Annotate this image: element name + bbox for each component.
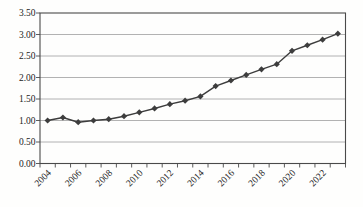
data-series: [45, 31, 341, 126]
y-axis-label: 1.50: [19, 94, 36, 104]
data-point-2011: [151, 105, 157, 111]
data-point-2004: [45, 117, 51, 123]
gridlines: [40, 35, 346, 143]
y-axis-label: 1.00: [19, 116, 36, 126]
y-axis-label: 3.50: [19, 8, 36, 18]
x-axis-label: 2018: [246, 168, 267, 189]
y-axis-label: 0.50: [19, 137, 36, 147]
y-axis-label: 2.50: [19, 51, 36, 61]
data-point-2012: [167, 101, 173, 107]
data-point-2021: [304, 42, 310, 48]
y-axis-label: 0.00: [19, 159, 36, 169]
data-point-2010: [136, 109, 142, 115]
x-axis-labels: 2004200620082010201220142016201820202022: [33, 168, 329, 189]
x-axis-label: 2022: [307, 168, 328, 189]
data-point-2022: [319, 37, 325, 43]
x-axis-label: 2012: [155, 168, 176, 189]
x-axis-ticks: [40, 164, 346, 168]
plot-border-rect: [40, 13, 346, 164]
x-axis-label: 2004: [33, 168, 54, 189]
data-point-2016: [228, 77, 234, 83]
data-point-2008: [106, 116, 112, 122]
data-point-2017: [243, 72, 249, 78]
data-line: [48, 34, 338, 123]
x-axis-label: 2010: [124, 168, 145, 189]
data-point-2013: [182, 98, 188, 104]
data-point-2009: [121, 113, 127, 119]
y-axis-labels: 0.000.501.001.502.002.503.003.50: [19, 8, 36, 169]
x-axis-label: 2020: [277, 168, 298, 189]
data-point-2023: [335, 31, 341, 37]
data-point-2005: [60, 114, 66, 120]
data-point-2018: [258, 66, 264, 72]
line-chart-figure: 0.000.501.001.502.002.503.003.50 2004200…: [0, 0, 363, 207]
line-chart-svg: 0.000.501.001.502.002.503.003.50 2004200…: [0, 0, 363, 207]
y-axis-label: 3.00: [19, 30, 36, 40]
x-axis-label: 2016: [216, 168, 237, 189]
x-axis-label: 2008: [94, 168, 115, 189]
data-point-2006: [75, 119, 81, 125]
y-axis-label: 2.00: [19, 73, 36, 83]
y-axis-ticks: [36, 13, 40, 164]
x-axis-label: 2014: [185, 168, 206, 189]
data-point-2007: [90, 117, 96, 123]
plot-border: [40, 13, 346, 164]
x-axis-label: 2006: [63, 168, 84, 189]
